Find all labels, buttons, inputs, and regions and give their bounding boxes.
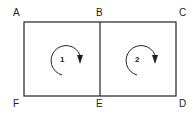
loop-2-label: 2 xyxy=(135,55,140,64)
node-label-d: D xyxy=(179,98,186,109)
loop-1-arrowhead-icon xyxy=(77,55,83,64)
loop-2-clockwise-arrow-icon xyxy=(126,46,155,75)
node-label-b: B xyxy=(96,7,103,18)
loop-1-clockwise-arrow-icon xyxy=(51,46,80,75)
node-label-e: E xyxy=(96,98,103,109)
circuit-diagram: A B C F E D 1 2 xyxy=(0,0,194,116)
node-label-c: C xyxy=(179,7,186,18)
node-label-f: F xyxy=(13,98,19,109)
loop-2-arrowhead-icon xyxy=(152,55,158,64)
node-label-a: A xyxy=(13,7,20,18)
loop-1-label: 1 xyxy=(60,55,65,64)
